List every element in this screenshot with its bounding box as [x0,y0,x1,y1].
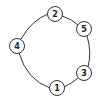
edge-3-1 [64,78,78,87]
node-1: 1 [50,81,65,96]
node-label: 3 [81,69,87,78]
cycle-diagram: 2 5 3 1 4 [0,0,101,102]
edge-5-3 [87,36,90,67]
edge-2-5 [62,16,78,25]
node-3: 3 [77,66,92,81]
node-4: 4 [10,39,25,54]
node-label: 5 [81,25,87,34]
edge-1-4 [19,53,50,88]
node-label: 1 [54,84,60,93]
node-5: 5 [77,22,92,37]
node-2: 2 [48,7,63,22]
edge-4-2 [21,14,48,39]
node-label: 4 [14,42,20,51]
node-label: 2 [52,10,58,19]
